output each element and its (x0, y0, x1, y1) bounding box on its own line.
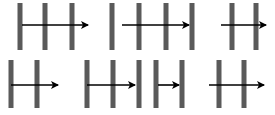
barrier-bar (180, 60, 185, 108)
barrier-bar (254, 3, 259, 50)
barrier-bar (242, 60, 247, 108)
barrier-bar (18, 3, 23, 50)
barrier-bar (190, 3, 195, 50)
barrier-bar (70, 3, 75, 50)
barrier-bar (85, 60, 90, 108)
barrier-bar (110, 3, 115, 50)
barrier-bar (217, 60, 222, 108)
barrier-bar (230, 3, 235, 50)
panel-2 (110, 3, 195, 50)
panel-6 (209, 60, 264, 108)
barrier-bar (43, 3, 48, 50)
barrier-bar (9, 60, 14, 108)
panel-5 (85, 60, 185, 108)
barrier-bar (137, 60, 142, 108)
barrier-bar (154, 60, 159, 108)
barrier-arrow-diagram (0, 0, 275, 115)
panel-4 (9, 60, 59, 108)
barrier-bar (111, 60, 116, 108)
barrier-bar (137, 3, 142, 50)
panel-1 (18, 3, 89, 50)
panel-3 (221, 3, 266, 50)
barrier-bar (35, 60, 40, 108)
barrier-bar (164, 3, 169, 50)
